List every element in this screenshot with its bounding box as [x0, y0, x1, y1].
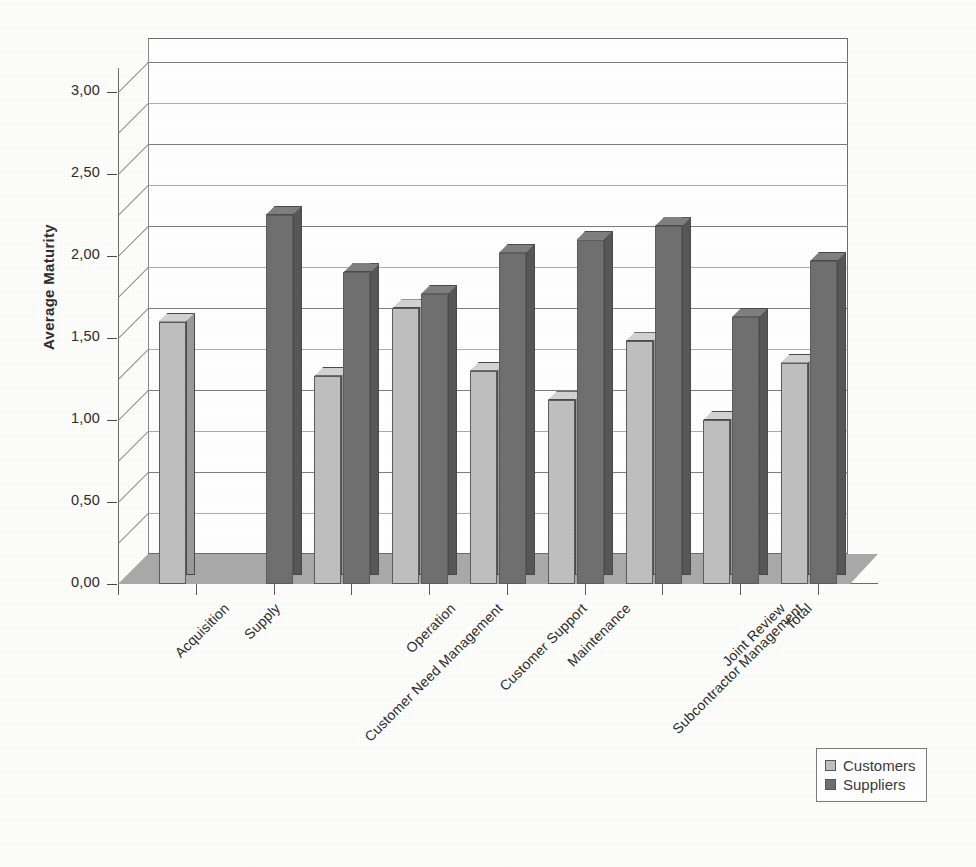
bar-face: [781, 363, 808, 584]
gridline-depth-connector: [118, 431, 148, 461]
bar-suppliers-customer-need-management: [343, 263, 379, 584]
gridline-depth-connector: [118, 226, 148, 256]
y-axis-tick-label: 3,00: [56, 82, 100, 98]
bar-suppliers-supply: [266, 206, 302, 584]
x-axis-tick-mark: [429, 584, 430, 595]
y-axis-tick-label: 0,00: [56, 574, 100, 590]
y-axis-tick-mark: [107, 174, 117, 175]
y-axis-tick-label: 1,50: [56, 328, 100, 344]
y-axis-tick-mark: [107, 420, 117, 421]
chart-legend: CustomersSuppliers: [816, 748, 927, 802]
legend-label: Suppliers: [843, 776, 906, 793]
y-axis-line: [118, 68, 119, 584]
gridline-depth-connector: [118, 472, 148, 502]
bar-face: [159, 322, 186, 584]
gridline-depth-connector: [118, 349, 148, 379]
x-axis-tick-mark: [662, 584, 663, 595]
bar-side: [759, 308, 768, 575]
gridline-depth-connector: [118, 308, 148, 338]
bar-face: [499, 253, 526, 584]
y-axis-tick-label: 2,00: [56, 246, 100, 262]
bar-suppliers-maintenance: [577, 231, 613, 584]
gridline-depth-connector: [118, 62, 148, 92]
x-axis-category-label: Supply: [241, 600, 283, 642]
x-axis-tick-mark: [274, 584, 275, 595]
bar-side: [448, 285, 457, 575]
legend-item-customers: Customers: [825, 757, 916, 774]
bar-suppliers-subcontractor-management: [655, 217, 691, 584]
gridline-depth-connector: [118, 267, 148, 297]
x-axis-tick-mark: [196, 584, 197, 595]
bar-side: [837, 252, 846, 575]
bar-face: [655, 226, 682, 584]
x-axis-tick-mark: [585, 584, 586, 595]
bar-face: [703, 420, 730, 584]
gridline: [148, 185, 848, 186]
gridline-depth-connector: [118, 144, 148, 174]
y-axis-tick-mark: [107, 256, 117, 257]
x-axis-tick-mark: [351, 584, 352, 595]
bar-side: [186, 313, 195, 575]
bar-face: [392, 308, 419, 584]
y-axis-tick-mark: [107, 584, 117, 585]
gridline-depth-connector: [118, 185, 148, 215]
y-axis-tick-mark: [107, 502, 117, 503]
x-axis-category-label: Acquisition: [171, 600, 232, 661]
gridline: [148, 144, 848, 145]
bar-side: [370, 263, 379, 575]
legend-item-suppliers: Suppliers: [825, 776, 916, 793]
bar-chart: Average Maturity 0,000,501,001,502,002,5…: [0, 0, 976, 867]
x-axis-tick-mark: [507, 584, 508, 595]
bar-face: [343, 272, 370, 584]
y-axis-tick-label: 1,00: [56, 410, 100, 426]
gridline-depth-connector: [118, 390, 148, 420]
x-axis-tick-mark: [818, 584, 819, 595]
y-axis-label-wrap: Average Maturity: [22, 170, 48, 430]
bar-face: [626, 341, 653, 584]
bar-suppliers-operation: [421, 285, 457, 584]
x-axis-tick-mark: [118, 584, 119, 595]
legend-label: Customers: [843, 757, 916, 774]
legend-swatch-icon: [825, 760, 836, 771]
bar-side: [293, 206, 302, 575]
bar-face: [810, 261, 837, 584]
bar-face: [266, 215, 293, 584]
gridline: [148, 62, 848, 63]
y-axis-tick-mark: [107, 92, 117, 93]
bar-face: [577, 240, 604, 584]
gridline-depth-connector: [118, 513, 148, 543]
y-axis-label: Average Maturity: [40, 50, 57, 350]
y-axis-tick-label: 0,50: [56, 492, 100, 508]
bar-face: [548, 400, 575, 584]
gridline: [148, 103, 848, 104]
bar-face: [421, 294, 448, 584]
bar-face: [470, 371, 497, 584]
bar-suppliers-total: [810, 252, 846, 584]
x-axis-tick-mark: [740, 584, 741, 595]
bar-face: [732, 317, 759, 584]
gridline: [148, 226, 848, 227]
gridline: [148, 267, 848, 268]
y-axis-tick-label: 2,50: [56, 164, 100, 180]
legend-swatch-icon: [825, 779, 836, 790]
bar-side: [526, 244, 535, 575]
bar-suppliers-customer-support: [499, 244, 535, 584]
bar-suppliers-joint-review: [732, 308, 768, 584]
bar-face: [314, 376, 341, 584]
bar-side: [604, 231, 613, 575]
bar-side: [682, 217, 691, 575]
bar-customers-acquisition: [159, 313, 195, 584]
gridline-depth-connector: [118, 103, 148, 133]
y-axis-tick-mark: [107, 338, 117, 339]
